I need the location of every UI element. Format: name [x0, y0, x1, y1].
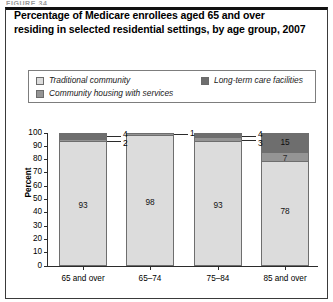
segment-long-term-care-facilities: 15: [262, 133, 308, 152]
y-axis-tick-mark: [44, 266, 48, 267]
y-axis-tick-label: 80: [33, 154, 42, 164]
x-axis-tick-label: 65 and over: [61, 274, 104, 283]
x-axis-tick-mark: [83, 266, 84, 270]
bar-4[interactable]: 15778: [261, 133, 309, 266]
segment-traditional-community: 98: [127, 135, 173, 265]
plot-area: 01020304050607080901009365 and over9865–…: [47, 133, 318, 267]
callout-leader-line: [107, 136, 121, 137]
x-axis-tick-mark: [285, 266, 286, 270]
y-axis-tick-label: 60: [33, 181, 42, 191]
segment-traditional-community: 78: [262, 161, 308, 265]
segment-traditional-community: 93: [195, 141, 241, 265]
y-axis-tick-mark: [44, 199, 48, 200]
x-axis-tick-label: 85 and over: [263, 274, 306, 283]
chart-plot-wrapper: Percent 01020304050607080901009365 and o…: [0, 0, 333, 302]
y-axis-tick-mark: [44, 133, 48, 134]
y-axis-tick-label: 90: [33, 141, 42, 151]
x-axis-tick-mark: [150, 266, 151, 270]
bar-value-label: 78: [262, 206, 308, 216]
bar-1[interactable]: 93: [59, 133, 107, 266]
segment-community-housing-with-services: 7: [262, 152, 308, 161]
callout-leader-line: [242, 140, 256, 141]
y-axis-tick-mark: [44, 186, 48, 187]
x-axis-tick-label: 65–74: [139, 274, 162, 283]
callout-value-label: 2: [123, 139, 128, 148]
y-axis-tick-mark: [44, 146, 48, 147]
y-axis-tick-label: 0: [37, 261, 42, 271]
callout-leader-line: [242, 136, 256, 137]
x-axis-tick-mark: [218, 266, 219, 270]
bar-value-label: 15: [262, 137, 308, 147]
bar-value-label: 93: [60, 200, 106, 210]
callout-value-label: 3: [258, 139, 263, 148]
y-axis-tick-mark: [44, 172, 48, 173]
callout-value-label: 1: [190, 129, 195, 138]
bar-value-label: 93: [195, 200, 241, 210]
bar-2[interactable]: 98: [126, 133, 174, 266]
bar-value-label: 98: [127, 197, 173, 207]
bar-3[interactable]: 93: [194, 133, 242, 266]
callout-leader-line: [107, 141, 121, 142]
y-axis-tick-mark: [44, 212, 48, 213]
y-axis-tick-mark: [44, 226, 48, 227]
y-axis-tick-label: 100: [28, 128, 42, 138]
figure-page: FIGURE 34 Percentage of Medicare enrolle…: [0, 0, 333, 302]
callout-leader-line: [174, 134, 188, 135]
y-axis-tick-label: 40: [33, 207, 42, 217]
y-axis-tick-label: 20: [33, 234, 42, 244]
y-axis-tick-label: 50: [33, 194, 42, 204]
y-axis-tick-mark: [44, 159, 48, 160]
y-axis-tick-mark: [44, 252, 48, 253]
segment-traditional-community: 93: [60, 141, 106, 265]
y-axis-tick-mark: [44, 239, 48, 240]
y-axis-tick-label: 30: [33, 221, 42, 231]
y-axis-tick-label: 70: [33, 167, 42, 177]
y-axis-title: Percent: [24, 161, 33, 205]
y-axis-tick-label: 10: [33, 247, 42, 257]
x-axis-tick-label: 75–84: [207, 274, 230, 283]
